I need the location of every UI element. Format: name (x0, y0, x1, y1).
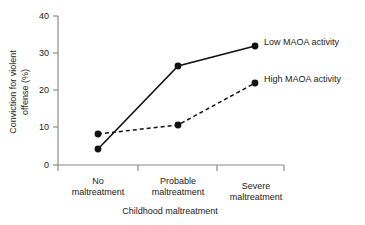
y-tick-label-30: 30 (39, 48, 49, 58)
chart-figure: Conviction for violent offense (%) 40 30… (0, 0, 365, 225)
y-tick-label-20: 20 (39, 85, 49, 95)
series-label-low-maoa: Low MAOA activity (264, 37, 340, 47)
category-label-2-line2: maltreatment (152, 187, 205, 197)
y-tick-label-40: 40 (39, 11, 49, 21)
y-axis-tick-labels: 40 30 20 10 0 (39, 11, 49, 170)
series-label-high-maoa: High MAOA activity (264, 74, 342, 84)
y-axis-title-line2: offense (%) (20, 69, 30, 115)
y-tick-label-0: 0 (44, 160, 49, 170)
data-point-high-2 (175, 122, 182, 129)
x-axis-category-labels: No maltreatment Probable maltreatment Se… (72, 176, 283, 202)
category-label-3-line2: maltreatment (230, 192, 283, 202)
x-axis-title: Childhood maltreatment (122, 206, 218, 216)
y-axis-title-line1: Conviction for violent (8, 50, 18, 134)
y-tick-label-10: 10 (39, 122, 49, 132)
data-point-low-3 (252, 43, 259, 50)
data-point-low-2 (175, 63, 182, 70)
data-point-high-3 (252, 80, 259, 87)
category-label-1-line1: No (92, 176, 104, 186)
category-label-2-line1: Probable (160, 176, 196, 186)
category-label-3-line1: Severe (242, 181, 271, 191)
series-markers-low-maoa (95, 43, 259, 153)
x-axis-ticks (58, 165, 284, 171)
y-axis-ticks (53, 16, 58, 165)
data-point-high-1 (95, 131, 102, 138)
series-markers-high-maoa (95, 80, 259, 138)
line-chart: Conviction for violent offense (%) 40 30… (0, 0, 365, 225)
y-axis-title: Conviction for violent offense (%) (8, 50, 30, 134)
data-point-low-1 (95, 146, 102, 153)
category-label-1-line2: maltreatment (72, 187, 125, 197)
series-line-low-maoa (98, 46, 255, 149)
